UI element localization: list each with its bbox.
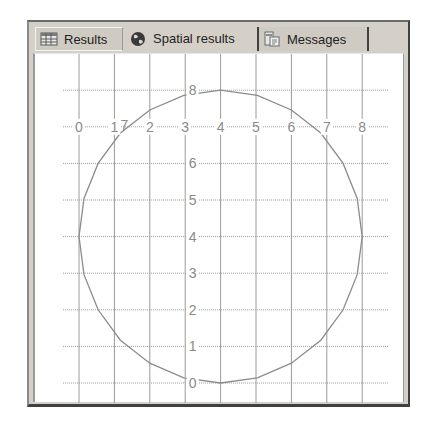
x-tick-label: 0 <box>75 119 83 135</box>
x-tick-label: 6 <box>288 119 296 135</box>
y-tick-label: 3 <box>189 265 197 281</box>
messages-icon <box>263 31 281 47</box>
grid-icon <box>40 31 58 47</box>
x-tick-label: 8 <box>358 119 366 135</box>
x-tick-label: 1 <box>111 119 119 135</box>
y-tick-label: 8 <box>189 82 197 98</box>
globe-icon <box>129 31 147 47</box>
y-tick-label: 7 <box>121 117 129 133</box>
x-tick-label: 2 <box>146 119 154 135</box>
y-tick-label: 2 <box>189 302 197 318</box>
x-tick-label: 7 <box>323 119 331 135</box>
x-tick-label: 3 <box>181 119 189 135</box>
results-tabstrip: Results Spatial results Messages <box>33 25 403 53</box>
y-tick-label: 1 <box>189 338 197 354</box>
tab-spatial-results[interactable]: Spatial results <box>125 25 257 52</box>
spatial-plot[interactable]: 012345678012345687 <box>35 54 406 403</box>
tab-messages-label: Messages <box>287 32 346 47</box>
y-tick-label: 6 <box>189 155 197 171</box>
y-tick-label: 5 <box>189 192 197 208</box>
tab-results[interactable]: Results <box>35 27 123 51</box>
x-tick-label: 4 <box>217 119 225 135</box>
tab-messages[interactable]: Messages <box>257 27 369 51</box>
results-panel: Results Spatial results Messages 0123456… <box>27 20 410 407</box>
tab-results-label: Results <box>64 32 107 47</box>
spatial-results-viewer[interactable]: 012345678012345687 <box>33 53 404 402</box>
x-tick-label: 5 <box>252 119 260 135</box>
y-tick-label: 0 <box>189 375 197 391</box>
tab-spatial-results-label: Spatial results <box>153 31 235 46</box>
y-tick-label: 4 <box>189 229 197 245</box>
